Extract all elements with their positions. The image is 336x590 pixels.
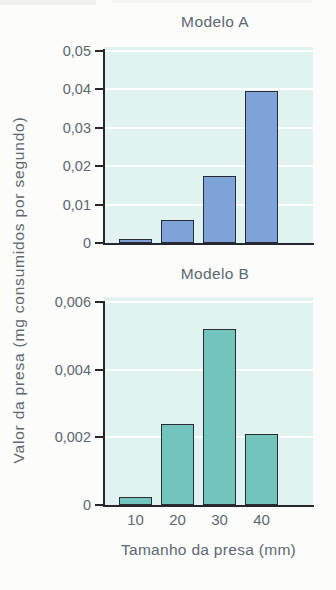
x-tick-label: 40 — [242, 511, 282, 528]
bar-30mm — [203, 176, 236, 243]
x-axis-title: Tamanho da presa (mm) — [104, 541, 313, 559]
x-axis-tick-labels: 10203040 — [104, 511, 313, 531]
bar-10mm — [119, 497, 152, 505]
y-tick-label: 0 — [41, 234, 91, 252]
gridline — [104, 165, 313, 167]
bar-40mm — [245, 434, 278, 505]
figure-prey-value-charts: Valor da presa (mg consumidos por segund… — [0, 0, 336, 590]
chart-b-plot-area — [104, 297, 313, 505]
scan-artifact-strip — [112, 0, 312, 3]
gridline — [104, 50, 313, 52]
x-tick-label: 10 — [116, 511, 156, 528]
bar-40mm — [245, 91, 278, 243]
gridline — [104, 301, 313, 303]
y-axis-title: Valor da presa (mg consumidos por segund… — [10, 117, 28, 464]
y-tick-label: 0,03 — [41, 119, 91, 137]
scan-artifact-strip — [0, 0, 96, 5]
chart-a-y-axis-ticks: 00,010,020,030,040,05 — [40, 47, 104, 243]
chart-b-y-axis-ticks: 00,0020,0040,006 — [40, 297, 104, 505]
y-tick-label: 0,006 — [41, 293, 91, 311]
chart-a-x-axis-line — [103, 243, 314, 245]
bar-30mm — [203, 329, 236, 505]
chart-a-title: Modelo A — [110, 13, 320, 31]
x-tick-label: 30 — [200, 511, 240, 528]
bar-20mm — [161, 424, 194, 505]
gridline — [104, 88, 313, 90]
y-tick-label: 0,004 — [41, 361, 91, 379]
y-tick-label: 0,02 — [41, 157, 91, 175]
gridline — [104, 127, 313, 129]
chart-a-plot-area — [104, 47, 313, 243]
y-tick-label: 0,01 — [41, 196, 91, 214]
y-tick-label: 0 — [41, 496, 91, 514]
bar-20mm — [161, 220, 194, 243]
chart-b-title: Modelo B — [110, 265, 320, 283]
y-tick-label: 0,04 — [41, 80, 91, 98]
chart-b-y-axis-line — [103, 301, 105, 507]
y-tick-label: 0,05 — [41, 42, 91, 60]
x-tick-label: 20 — [158, 511, 198, 528]
chart-a-y-axis-line — [103, 49, 105, 245]
y-tick-label: 0,002 — [41, 428, 91, 446]
chart-b-x-axis-line — [103, 505, 314, 507]
